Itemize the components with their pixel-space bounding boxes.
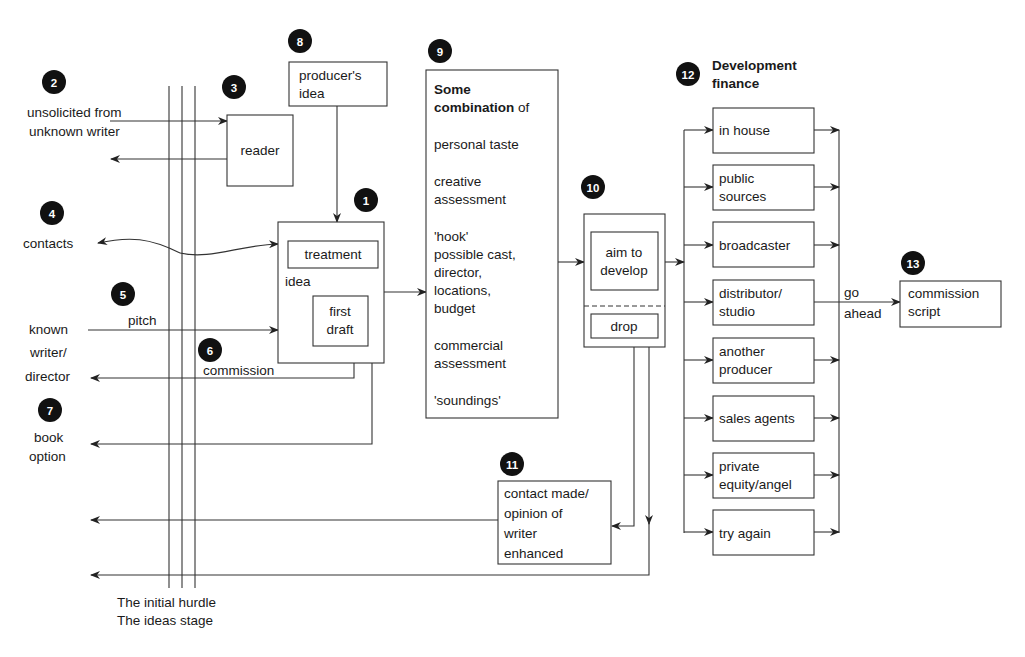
criterion-personal-taste: personal taste xyxy=(434,137,519,152)
svg-text:11: 11 xyxy=(506,459,519,471)
finance-option-in-house: in house xyxy=(684,108,839,153)
marker-13: 13 xyxy=(901,251,925,275)
svg-text:equity/angel: equity/angel xyxy=(719,477,792,492)
source-contacts: contacts xyxy=(23,236,74,251)
marker-5: 5 xyxy=(111,282,135,306)
finance-title-line2: finance xyxy=(712,76,760,91)
contact-line3: writer xyxy=(503,526,538,541)
svg-text:try again: try again xyxy=(719,526,771,541)
aim-to-develop-box xyxy=(591,232,658,290)
svg-text:distributor/: distributor/ xyxy=(719,286,782,301)
marker-12: 12 xyxy=(676,62,700,86)
svg-text:private: private xyxy=(719,459,760,474)
arrow-contacts-out xyxy=(98,239,180,253)
criterion-hook-line3: director, xyxy=(434,265,482,280)
svg-text:5: 5 xyxy=(120,289,127,301)
criterion-creative-line1: creative xyxy=(434,174,481,189)
svg-text:12: 12 xyxy=(682,69,695,81)
criterion-soundings: 'soundings' xyxy=(434,393,501,408)
marker-4: 4 xyxy=(40,201,64,225)
drop-label: drop xyxy=(610,319,637,334)
source-known-line2: writer/ xyxy=(29,345,67,360)
source-book-line1: book xyxy=(34,430,64,445)
svg-text:another: another xyxy=(719,344,765,359)
source-book-line2: option xyxy=(29,449,66,464)
svg-text:9: 9 xyxy=(437,46,443,58)
svg-text:2: 2 xyxy=(51,77,57,89)
marker-9: 9 xyxy=(428,39,452,63)
contact-line4: enhanced xyxy=(504,546,563,561)
svg-text:4: 4 xyxy=(49,208,56,220)
svg-text:10: 10 xyxy=(587,182,600,194)
finance-option-try-again: try again xyxy=(684,510,839,555)
marker-2: 2 xyxy=(42,70,66,94)
svg-text:8: 8 xyxy=(297,36,304,48)
marker-7: 7 xyxy=(38,398,62,422)
criterion-commercial-line2: assessment xyxy=(434,356,506,371)
contact-line2: opinion of xyxy=(504,506,563,521)
marker-1: 1 xyxy=(354,188,378,212)
combination-heading-line2: combination of xyxy=(434,100,530,115)
svg-text:sales agents: sales agents xyxy=(719,411,795,426)
aim-line2: develop xyxy=(600,263,647,278)
combination-heading-line1: Some xyxy=(434,82,471,97)
contact-line1: contact made/ xyxy=(504,486,589,501)
development-flow-diagram: The initial hurdle The ideas stage 2 uns… xyxy=(0,0,1025,657)
criterion-hook-line1: 'hook' xyxy=(434,229,468,244)
finance-option-private-equity: private equity/angel xyxy=(684,453,839,498)
go-ahead-line1: go xyxy=(844,285,859,300)
first-draft-line2: draft xyxy=(326,322,353,337)
source-unsolicited-line1: unsolicited from xyxy=(27,105,122,120)
criterion-creative-line2: assessment xyxy=(434,192,506,207)
commission-script-line2: script xyxy=(908,304,941,319)
marker-6: 6 xyxy=(198,338,222,362)
marker-8: 8 xyxy=(288,29,312,53)
aim-line1: aim to xyxy=(606,245,643,260)
idea-label: idea xyxy=(285,274,311,289)
source-known-line1: known xyxy=(29,322,68,337)
treatment-label: treatment xyxy=(304,247,361,262)
producers-idea-line2: idea xyxy=(299,86,325,101)
pitch-label: pitch xyxy=(128,313,157,328)
marker-3: 3 xyxy=(222,75,246,99)
initial-hurdle-lines xyxy=(169,86,195,588)
first-draft-line1: first xyxy=(329,304,351,319)
marker-11: 11 xyxy=(500,452,524,476)
finance-option-distributor-studio: distributor/ studio xyxy=(684,280,814,325)
svg-text:13: 13 xyxy=(907,258,920,270)
source-unsolicited-line2: unknown writer xyxy=(29,124,120,139)
finance-option-broadcaster: broadcaster xyxy=(684,222,839,267)
svg-text:producer: producer xyxy=(719,362,773,377)
svg-text:sources: sources xyxy=(719,189,767,204)
producers-idea-line1: producer's xyxy=(299,68,362,83)
svg-text:studio: studio xyxy=(719,304,755,319)
source-known-line3: director xyxy=(25,369,71,384)
arrow-drop-to-contact xyxy=(612,347,634,526)
svg-text:public: public xyxy=(719,171,755,186)
criterion-hook-line4: locations, xyxy=(434,283,491,298)
criterion-hook-line5: budget xyxy=(434,301,476,316)
reader-label: reader xyxy=(240,143,280,158)
marker-10: 10 xyxy=(581,175,605,199)
svg-text:broadcaster: broadcaster xyxy=(719,238,791,253)
finance-option-sales-agents: sales agents xyxy=(684,396,839,441)
criterion-commercial-line1: commercial xyxy=(434,338,503,353)
commission-label: commission xyxy=(203,363,274,378)
finance-title-line1: Development xyxy=(712,58,797,73)
finance-option-public-sources: public sources xyxy=(684,165,839,210)
go-ahead-line2: ahead xyxy=(844,306,882,321)
svg-text:1: 1 xyxy=(363,195,370,207)
svg-text:3: 3 xyxy=(231,82,237,94)
hurdle-label-line2: The ideas stage xyxy=(117,613,213,628)
commission-script-line1: commission xyxy=(908,286,979,301)
svg-text:6: 6 xyxy=(207,345,213,357)
hurdle-label-line1: The initial hurdle xyxy=(117,595,216,610)
svg-text:in house: in house xyxy=(719,123,770,138)
criterion-hook-line2: possible cast, xyxy=(434,247,516,262)
finance-option-another-producer: another producer xyxy=(684,338,839,383)
svg-text:7: 7 xyxy=(47,405,53,417)
